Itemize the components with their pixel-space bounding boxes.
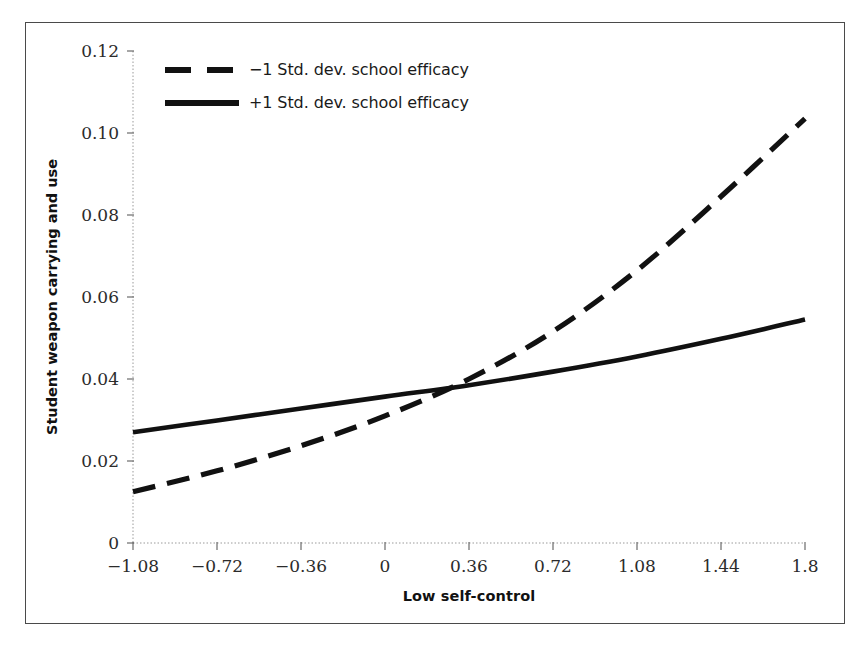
y-tick-label: 0 <box>108 533 119 553</box>
legend-item-solid: +1 Std. dev. school efficacy <box>163 86 503 119</box>
figure-container: 00.020.040.060.080.100.12 −1.08−0.72−0.3… <box>0 0 863 647</box>
y-tick-label: 0.04 <box>81 369 119 389</box>
y-tick-label: 0.12 <box>81 41 119 61</box>
legend-label-dashed: −1 Std. dev. school efficacy <box>249 60 469 79</box>
legend-swatch-dashed-icon <box>163 63 241 77</box>
y-tick-label: 0.08 <box>81 205 119 225</box>
x-tick-label: −0.72 <box>191 556 243 576</box>
x-tick-label: 0 <box>380 556 391 576</box>
x-tick-label: 1.8 <box>791 556 818 576</box>
y-tick-label: 0.10 <box>81 123 119 143</box>
legend-item-dashed: −1 Std. dev. school efficacy <box>163 53 503 86</box>
y-axis-title: Student weapon carrying and use <box>44 159 60 435</box>
legend-swatch-solid-icon <box>163 96 241 110</box>
legend-label-solid: +1 Std. dev. school efficacy <box>249 93 469 112</box>
x-tick-label: −0.36 <box>275 556 327 576</box>
x-tick-label: 1.44 <box>702 556 740 576</box>
x-tick-label: 1.08 <box>618 556 656 576</box>
chart-legend: −1 Std. dev. school efficacy +1 Std. dev… <box>163 53 503 119</box>
x-tick-label: 0.36 <box>450 556 488 576</box>
x-axis-title: Low self-control <box>403 588 536 604</box>
x-tick-label: 0.72 <box>534 556 572 576</box>
x-tick-label: −1.08 <box>107 556 159 576</box>
y-tick-label: 0.06 <box>81 287 119 307</box>
y-tick-label: 0.02 <box>81 451 119 471</box>
